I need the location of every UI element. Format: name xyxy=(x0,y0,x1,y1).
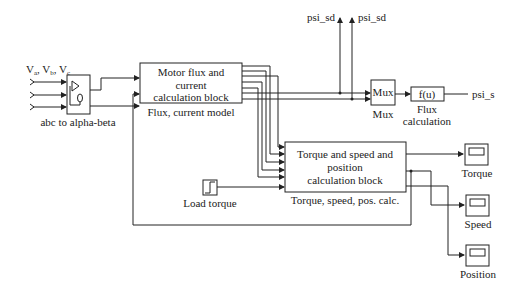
mux-block-label: Mux xyxy=(373,86,394,98)
scope-torque-caption: Torque xyxy=(462,167,493,179)
torque-speed-position-block[interactable]: Torque and speed and position calculatio… xyxy=(285,142,406,192)
mux-caption: Mux xyxy=(373,108,394,120)
flux-calculation-caption-2: calculation xyxy=(403,115,452,127)
flux-calculation-fcn-block[interactable]: f(u) xyxy=(411,87,444,101)
torque-block-line-1: Torque and speed and xyxy=(297,148,394,160)
torque-block-line-3: calculation block xyxy=(307,174,383,186)
output-psi-sd-left-label: psi_sd xyxy=(307,11,336,23)
flux-current-model-block[interactable]: Motor flux and current calculation block xyxy=(140,63,242,103)
flux-calculation-caption-1: Flux xyxy=(417,103,438,115)
flux-current-model-caption: Flux, current model xyxy=(147,106,234,118)
torque-block-line-2: position xyxy=(327,161,363,173)
output-psi-sd-right-label: psi_sd xyxy=(358,11,387,23)
scope-torque[interactable] xyxy=(465,144,488,165)
signal-speed xyxy=(406,171,464,205)
scope-speed[interactable] xyxy=(466,195,489,216)
simulink-diagram: Va, Vb, Vc abc to alpha-beta Motor flux … xyxy=(0,0,515,295)
scope-speed-caption: Speed xyxy=(465,218,492,230)
flux-block-line-1: Motor flux and xyxy=(158,66,225,78)
flux-block-line-3: calculation block xyxy=(153,91,229,103)
abc-to-alpha-beta-block[interactable] xyxy=(67,75,90,114)
input-port-va[interactable] xyxy=(30,79,66,85)
scope-position[interactable] xyxy=(466,245,489,266)
flux-block-line-2: current xyxy=(175,79,206,91)
input-port-vb[interactable] xyxy=(30,92,66,98)
scope-position-caption: Position xyxy=(460,268,497,280)
input-port-vc[interactable] xyxy=(30,104,66,110)
load-torque-block[interactable] xyxy=(203,180,217,195)
fcn-block-label: f(u) xyxy=(419,88,436,101)
signal-feedback-speed xyxy=(133,94,139,225)
output-psi-s-label: psi_s xyxy=(472,88,495,100)
signal-flux-out-3 xyxy=(242,76,284,147)
signal-alpha xyxy=(90,78,139,90)
load-torque-caption: Load torque xyxy=(183,197,237,209)
abc-to-alpha-beta-caption: abc to alpha-beta xyxy=(40,116,115,128)
input-voltages-label: Va, Vb, Vc xyxy=(26,63,70,77)
signal-position xyxy=(406,186,464,255)
torque-speed-position-caption: Torque, speed, pos. calc. xyxy=(291,194,400,206)
mux-block[interactable]: Mux xyxy=(371,80,395,105)
